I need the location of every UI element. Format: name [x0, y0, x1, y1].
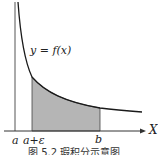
tick-label-a: a [12, 135, 19, 146]
shaded-integral-region [32, 77, 100, 131]
x-axis-arrow-icon [140, 129, 146, 134]
improper-integral-diagram [0, 0, 158, 155]
tick-label-b: b [95, 134, 102, 145]
function-label: y = f(x) [30, 45, 71, 56]
x-axis-label: X [149, 125, 158, 136]
tick-label-a-plus-epsilon: a+ε [23, 135, 45, 146]
figure-caption: 图 5.2 瑕积分示意图 [28, 146, 148, 155]
